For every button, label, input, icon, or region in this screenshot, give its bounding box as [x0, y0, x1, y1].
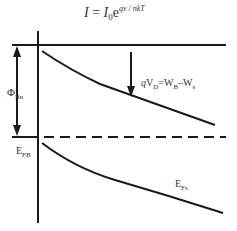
valence-band-curve: [42, 143, 223, 213]
built-in-voltage-label: qVD=WB–Ws: [141, 77, 195, 91]
arrow-up-icon: [13, 46, 21, 57]
barrier-height-label: ΦBn: [7, 86, 23, 101]
fermi-level-metal-label: EFB: [16, 145, 31, 159]
band-diagram: [0, 0, 237, 231]
fermi-level-semiconductor-label: EFs: [175, 178, 188, 192]
arrow-down-icon: [13, 125, 21, 136]
